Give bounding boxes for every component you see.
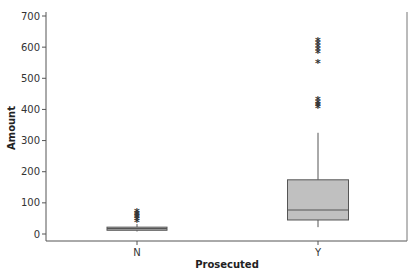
- x-tick-label: Y: [314, 247, 322, 258]
- y-tick-label: 500: [21, 73, 40, 84]
- box-group-y: ***********: [288, 35, 349, 227]
- y-axis-title: Amount: [6, 106, 17, 150]
- iqr-box: [288, 180, 349, 220]
- x-tick-label: N: [133, 247, 140, 258]
- outlier-marker: *: [315, 35, 321, 48]
- boxplot-chart: 0100200300400500600700 NY **************…: [0, 0, 416, 275]
- y-tick-label: 400: [21, 104, 40, 115]
- plot-frame: [46, 12, 407, 241]
- outlier-marker: *: [315, 94, 321, 107]
- outlier-marker: *: [134, 206, 140, 219]
- x-axis-title: Prosecuted: [195, 259, 259, 270]
- y-tick-label: 0: [34, 229, 40, 240]
- x-axis: NY: [133, 241, 322, 258]
- y-tick-label: 300: [21, 135, 40, 146]
- box-group-n: *******: [107, 206, 167, 231]
- y-axis: 0100200300400500600700: [21, 11, 46, 240]
- y-tick-label: 600: [21, 42, 40, 53]
- box-series: ******************: [107, 35, 349, 232]
- y-tick-label: 700: [21, 11, 40, 22]
- y-tick-label: 200: [21, 166, 40, 177]
- y-tick-label: 100: [21, 197, 40, 208]
